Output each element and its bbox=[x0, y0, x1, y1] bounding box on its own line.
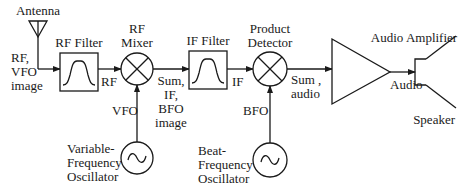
product-detector-label-line1: Product bbox=[250, 21, 291, 36]
product-detector-block bbox=[253, 52, 287, 86]
svg-text:Oscillator: Oscillator bbox=[198, 171, 250, 186]
svg-text:Sum,: Sum, bbox=[157, 73, 184, 88]
vfo-label: Variable- Frequency Oscillator bbox=[67, 141, 122, 184]
svg-text:IF,: IF, bbox=[164, 87, 178, 102]
speaker-label: Speaker bbox=[413, 112, 456, 127]
svg-text:Variable-: Variable- bbox=[67, 141, 115, 156]
svg-text:Oscillator: Oscillator bbox=[67, 169, 119, 184]
svg-text:Sum ,: Sum , bbox=[291, 72, 321, 87]
speaker-icon bbox=[415, 36, 456, 108]
svg-text:BFO: BFO bbox=[158, 101, 183, 116]
product-detector-label-line2: Detector bbox=[248, 35, 293, 50]
rf-signal-label: RF bbox=[101, 74, 117, 89]
bfo-signal-label: BFO bbox=[243, 103, 268, 118]
svg-text:image: image bbox=[155, 115, 187, 130]
antenna-label: Antenna bbox=[16, 3, 60, 18]
svg-text:Beat-: Beat- bbox=[198, 143, 226, 158]
vfo-oscillator-block bbox=[121, 142, 153, 174]
svg-text:image: image bbox=[11, 78, 43, 93]
mixer-output-label: Sum, IF, BFO image bbox=[155, 73, 187, 130]
svg-text:VFO: VFO bbox=[11, 64, 37, 79]
rf-mixer-label-line2: Mixer bbox=[121, 35, 153, 50]
svg-text:Frequency: Frequency bbox=[67, 155, 122, 170]
rf-mixer-block bbox=[121, 53, 153, 85]
audio-amplifier-block bbox=[332, 39, 390, 104]
detector-output-label: Sum , audio bbox=[291, 72, 321, 101]
if-filter-label: IF Filter bbox=[187, 33, 231, 48]
if-filter-block bbox=[189, 51, 227, 89]
receiver-block-diagram: Antenna RF, VFO image RF Filter RF RF Mi… bbox=[0, 0, 467, 193]
antenna-icon bbox=[29, 21, 47, 69]
if-signal-label: IF bbox=[232, 74, 244, 89]
rf-mixer-label-line1: RF bbox=[129, 21, 145, 36]
svg-text:RF,: RF, bbox=[11, 50, 29, 65]
audio-amplifier-label: Audio Amplifier bbox=[371, 30, 458, 45]
bfo-label: Beat- Frequency Oscillator bbox=[198, 143, 253, 186]
svg-text:audio: audio bbox=[291, 86, 320, 101]
svg-text:Frequency: Frequency bbox=[198, 157, 253, 172]
rf-filter-block bbox=[60, 53, 98, 91]
bfo-oscillator-block bbox=[253, 143, 287, 177]
rf-filter-label: RF Filter bbox=[55, 35, 103, 50]
vfo-signal-label: VFO bbox=[112, 103, 138, 118]
